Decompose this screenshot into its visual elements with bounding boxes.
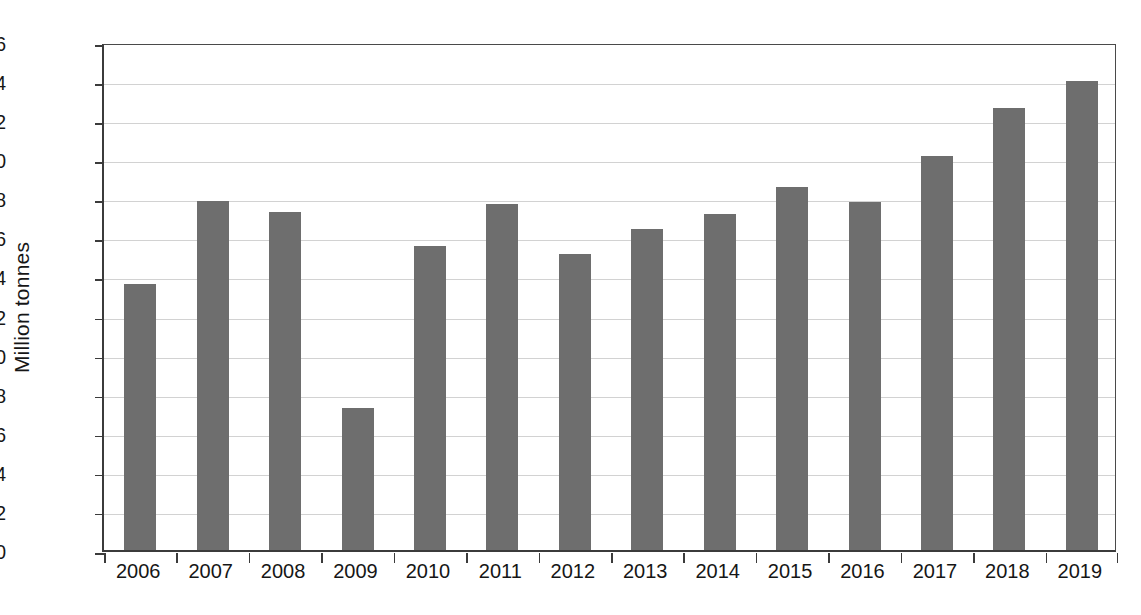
gridline bbox=[104, 84, 1115, 85]
x-axis-tick bbox=[1046, 553, 1048, 563]
bar-chart: Million tonnes 02468101214161820222426 2… bbox=[0, 0, 1141, 615]
y-axis-tick-label: 18 bbox=[0, 189, 6, 212]
x-axis-tick bbox=[973, 553, 975, 563]
x-axis-tick bbox=[828, 553, 830, 563]
gridline bbox=[104, 358, 1115, 359]
y-axis-tick-label: 24 bbox=[0, 72, 6, 95]
y-axis-tick bbox=[95, 201, 104, 203]
x-axis-tick bbox=[321, 553, 323, 563]
y-axis-tick-label: 12 bbox=[0, 306, 6, 329]
bar bbox=[1066, 81, 1098, 550]
bar bbox=[414, 246, 446, 550]
y-axis-tick-label: 20 bbox=[0, 150, 6, 173]
x-axis-tick-label: 2019 bbox=[1035, 560, 1125, 583]
gridline bbox=[104, 514, 1115, 515]
x-axis-tick bbox=[611, 553, 613, 563]
gridline bbox=[104, 162, 1115, 163]
y-axis-tick bbox=[95, 514, 104, 516]
bar bbox=[704, 214, 736, 550]
x-axis-tick bbox=[176, 553, 178, 563]
y-axis-tick-label: 26 bbox=[0, 33, 6, 56]
y-axis-tick bbox=[95, 240, 104, 242]
x-axis-tick bbox=[683, 553, 685, 563]
x-axis-tick bbox=[1117, 553, 1119, 563]
bar bbox=[631, 229, 663, 550]
y-axis-tick bbox=[95, 397, 104, 399]
bar bbox=[921, 156, 953, 550]
gridline bbox=[104, 319, 1115, 320]
bar bbox=[342, 408, 374, 550]
x-axis-tick bbox=[539, 553, 541, 563]
plot-area bbox=[102, 44, 1116, 552]
y-axis-tick-label: 0 bbox=[0, 541, 6, 564]
gridline bbox=[104, 397, 1115, 398]
y-axis-tick-label: 6 bbox=[0, 423, 6, 446]
bar bbox=[486, 204, 518, 550]
y-axis-tick bbox=[95, 358, 104, 360]
bar bbox=[559, 254, 591, 550]
x-axis-tick bbox=[901, 553, 903, 563]
y-axis-tick bbox=[95, 436, 104, 438]
gridline bbox=[104, 201, 1115, 202]
y-axis-tick-label: 10 bbox=[0, 345, 6, 368]
y-axis-tick bbox=[95, 84, 104, 86]
y-axis-tick bbox=[95, 45, 104, 47]
y-axis-tick bbox=[95, 553, 104, 555]
y-axis-tick bbox=[95, 475, 104, 477]
y-axis-title: Million tonnes bbox=[0, 0, 44, 615]
bar bbox=[849, 202, 881, 550]
y-axis-tick-label: 2 bbox=[0, 501, 6, 524]
gridline bbox=[104, 240, 1115, 241]
gridline bbox=[104, 436, 1115, 437]
y-axis-tick bbox=[95, 319, 104, 321]
y-axis-tick-label: 16 bbox=[0, 228, 6, 251]
bar bbox=[993, 108, 1025, 550]
x-axis-tick bbox=[394, 553, 396, 563]
gridline bbox=[104, 123, 1115, 124]
x-axis-tick bbox=[249, 553, 251, 563]
y-axis-tick bbox=[95, 162, 104, 164]
y-axis-tick-label: 22 bbox=[0, 111, 6, 134]
y-axis-tick-label: 4 bbox=[0, 462, 6, 485]
y-axis-tick bbox=[95, 123, 104, 125]
x-axis-tick bbox=[104, 553, 106, 563]
gridline bbox=[104, 279, 1115, 280]
bar bbox=[124, 284, 156, 550]
y-axis-tick-label: 8 bbox=[0, 384, 6, 407]
bar bbox=[269, 212, 301, 550]
bar bbox=[776, 187, 808, 550]
y-axis-tick bbox=[95, 279, 104, 281]
x-axis-tick bbox=[756, 553, 758, 563]
y-axis-tick-label: 14 bbox=[0, 267, 6, 290]
x-axis-tick bbox=[466, 553, 468, 563]
gridline bbox=[104, 475, 1115, 476]
bar bbox=[197, 201, 229, 550]
